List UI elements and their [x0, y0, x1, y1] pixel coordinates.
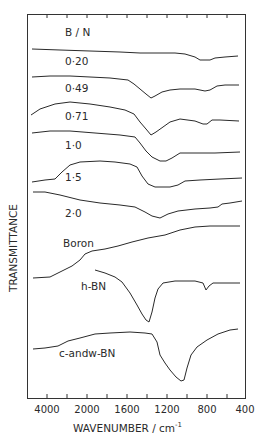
label-1.0: 1·0: [65, 139, 82, 151]
label-1.5: 1·5: [65, 171, 82, 183]
x-tick-2000: 2000: [74, 404, 99, 415]
legend-header: B / N: [65, 26, 90, 38]
curve-1.5: [32, 161, 242, 187]
curve-h-bn: [95, 270, 240, 322]
x-tick-1600: 1600: [114, 404, 139, 415]
ir-spectra-chart: 4000 2000 1600 1200 800 400 WAVENUMBER /…: [0, 0, 261, 440]
curve-0.20: [32, 49, 238, 60]
label-0.20: 0·20: [65, 55, 88, 67]
x-tick-4000: 4000: [34, 404, 59, 415]
label-0.49: 0·49: [65, 82, 88, 94]
curve-boron: [33, 226, 240, 278]
label-c-and-w-bn: c-andw-BN: [59, 347, 115, 359]
label-boron: Boron: [63, 237, 94, 249]
x-tick-400: 400: [235, 404, 254, 415]
label-0.71: 0·71: [65, 110, 88, 122]
y-axis-label: TRANSMITTANCE: [7, 204, 19, 293]
bottom-ticks: [47, 394, 227, 398]
curve-0.71: [31, 102, 239, 135]
label-h-bn: h-BN: [81, 280, 106, 292]
curve-1.0: [32, 131, 240, 161]
x-axis-label: WAVENUMBER / cm-1: [73, 421, 182, 434]
plot-frame: [28, 15, 246, 399]
x-tick-1200: 1200: [154, 404, 179, 415]
x-tick-800: 800: [197, 404, 216, 415]
label-2.0: 2·0: [65, 207, 82, 219]
curve-0.49: [32, 76, 239, 98]
